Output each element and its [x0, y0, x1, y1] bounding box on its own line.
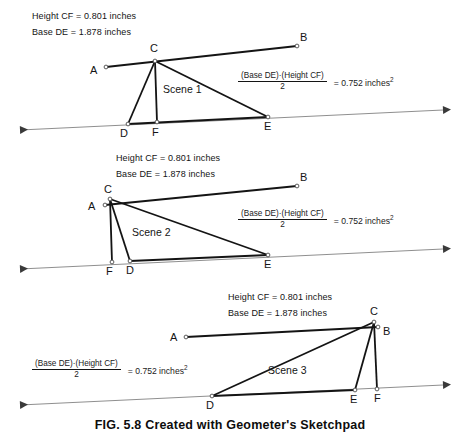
scene-3-formula-numerator: (Base DE)·(Height CF) [32, 360, 121, 369]
scene-3-name-label: Scene 3 [268, 364, 307, 376]
scene-3-formula-result-exponent: 2 [184, 364, 188, 371]
scene-1-label-A: A [90, 64, 97, 76]
scene-3-formula-result: = 0.752 inches2 [128, 364, 188, 376]
scene-2-height-label: Height CF = 0.801 inches [116, 153, 220, 163]
scene-2-point-B [295, 184, 299, 188]
scene-3-label-D: D [206, 399, 214, 411]
scene-3-formula-fraction: (Base DE)·(Height CF) 2 [32, 360, 121, 379]
scene-3-point-B [376, 325, 380, 329]
scene-1-name-label: Scene 1 [163, 83, 202, 95]
scene-3-segment-CD [212, 322, 374, 396]
scene-3-point-A [184, 335, 188, 339]
scene-3-formula-result-text: = 0.752 inches [128, 366, 184, 376]
scene-1-point-C [153, 59, 157, 63]
scene-3-segment-DE-base [212, 390, 355, 396]
scene-1-base-label: Base DE = 1.878 inches [32, 27, 131, 37]
scene-3-label-E: E [350, 393, 357, 405]
scene-3-label-B: B [383, 325, 390, 337]
figure-caption: FIG. 5.8 Created with Geometer's Sketchp… [0, 418, 460, 432]
scene-1-formula-result: = 0.752 inches2 [334, 76, 394, 88]
scene-1-point-A [104, 65, 108, 69]
scene-1-label-F: F [152, 126, 159, 138]
scene-2-formula-result-text: = 0.752 inches [334, 216, 390, 226]
scene-2-point-F [110, 260, 114, 264]
scene-2-point-A [103, 203, 107, 207]
scene-1-point-F [155, 120, 159, 124]
scene-2-label-D: D [126, 264, 134, 276]
scene-1-segment-CD [128, 61, 155, 124]
scene-2-segment-CF-height [110, 199, 112, 262]
scene-2-label-B: B [300, 171, 307, 183]
scene-1-label-C: C [150, 42, 158, 54]
scene-2-segment-CD [110, 199, 130, 261]
scene-2-label-E: E [264, 258, 271, 270]
scene-3-segment-CF-height [374, 322, 377, 389]
scene-3-label-C: C [370, 305, 378, 317]
scene-3-formula-denominator: 2 [74, 370, 79, 379]
scene-2-label-F: F [106, 265, 113, 277]
scene-3-point-C [372, 320, 376, 324]
scene-3-area-formula: (Base DE)·(Height CF) 2 = 0.752 inches2 [32, 360, 188, 379]
scene-1-formula-denominator: 2 [280, 82, 285, 91]
scene-2-name-label: Scene 2 [132, 226, 171, 238]
scene-2-formula-result-exponent: 2 [390, 214, 394, 221]
scene-3-point-E [353, 388, 357, 392]
scene-1-formula-result-text: = 0.752 inches [334, 78, 390, 88]
scene-1-segment-CF-height [155, 61, 157, 122]
scene-1-point-B [295, 44, 299, 48]
scene-2-formula-numerator: (Base DE)·(Height CF) [238, 210, 327, 219]
scene-2-line-AB [105, 186, 297, 205]
scene-2-point-D [128, 259, 132, 263]
scene-1-formula-result-exponent: 2 [390, 76, 394, 83]
scene-3-base-label: Base DE = 1.878 inches [228, 308, 327, 318]
scene-3-label-F: F [374, 392, 381, 404]
scene-3-segment-CE [355, 322, 374, 390]
scene-3-point-F [375, 387, 379, 391]
scene-2-point-C [108, 197, 112, 201]
scene-3-height-label: Height CF = 0.801 inches [228, 292, 332, 302]
scene-2-label-A: A [88, 200, 95, 212]
scene-1-label-D: D [120, 127, 128, 139]
scene-1-line-AB [106, 46, 297, 67]
scene-2-area-formula: (Base DE)·(Height CF) 2 = 0.752 inches2 [238, 210, 394, 229]
scene-2-point-E [266, 253, 270, 257]
scene-1-formula-fraction: (Base DE)·(Height CF) 2 [238, 72, 327, 91]
scene-1-baseline [20, 110, 443, 130]
scene-2-baseline [20, 249, 443, 269]
scene-3-label-A: A [170, 331, 177, 343]
scene-2-label-C: C [104, 183, 112, 195]
scene-2-formula-denominator: 2 [280, 220, 285, 229]
scene-2-formula-result: = 0.752 inches2 [334, 214, 394, 226]
scene-1-height-label: Height CF = 0.801 inches [32, 11, 136, 21]
scene-3-point-D [210, 394, 214, 398]
scene-2-base-label: Base DE = 1.878 inches [116, 169, 215, 179]
scene-1-point-D [126, 122, 130, 126]
scene-1-segment-DE-base [128, 117, 268, 124]
scene-1-point-E [266, 115, 270, 119]
scene-1-label-B: B [300, 31, 307, 43]
scene-1-formula-numerator: (Base DE)·(Height CF) [238, 72, 327, 81]
scene-2-formula-fraction: (Base DE)·(Height CF) 2 [238, 210, 327, 229]
scene-1-area-formula: (Base DE)·(Height CF) 2 = 0.752 inches2 [238, 72, 394, 91]
scene-3-line-AB [186, 327, 378, 337]
scene-1-label-E: E [264, 120, 271, 132]
